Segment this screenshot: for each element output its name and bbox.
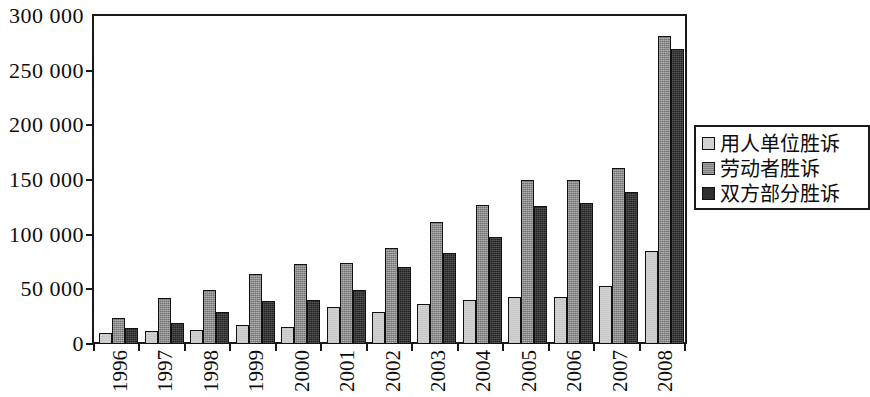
- legend-item-label: 劳动者胜诉: [720, 159, 820, 179]
- y-axis-tick-label: 250 000: [9, 60, 84, 82]
- bar: [372, 312, 385, 344]
- x-axis-tick-mark: [593, 344, 595, 351]
- bar: [534, 206, 547, 344]
- bar: [353, 290, 366, 344]
- bar-group: [145, 16, 184, 344]
- x-axis-tick-mark: [684, 344, 686, 351]
- y-axis-tick-label: 300 000: [9, 5, 84, 27]
- x-axis-tick-mark: [457, 344, 459, 351]
- plot-surface: [94, 16, 685, 344]
- bar: [476, 205, 489, 344]
- x-axis-tick-label: 2008: [653, 350, 678, 392]
- bar-group: [554, 16, 593, 344]
- x-axis-tick-mark: [411, 344, 413, 351]
- bar: [281, 327, 294, 344]
- light-gray-swatch: [702, 137, 715, 150]
- bar: [216, 312, 229, 344]
- x-axis-tick-label: 2007: [608, 350, 633, 392]
- bar: [340, 263, 353, 344]
- bar: [417, 304, 430, 344]
- y-axis-tick-mark: [86, 179, 94, 181]
- bar-group: [99, 16, 138, 344]
- bar: [521, 180, 534, 344]
- bar: [612, 168, 625, 344]
- y-axis-tick-label: 100 000: [9, 224, 84, 246]
- bar: [190, 330, 203, 344]
- x-axis-tick-mark: [138, 344, 140, 351]
- bar: [567, 180, 580, 344]
- bar: [171, 323, 184, 344]
- bar: [99, 333, 112, 344]
- bar: [508, 297, 521, 344]
- x-axis-tick-mark: [366, 344, 368, 351]
- bar-group: [417, 16, 456, 344]
- x-axis-tick-label: 1998: [199, 350, 224, 392]
- y-axis-tick-mark: [86, 70, 94, 72]
- bar: [125, 328, 138, 344]
- bar: [145, 331, 158, 344]
- bar-group: [190, 16, 229, 344]
- y-axis-tick-mark: [86, 234, 94, 236]
- dark-gray-swatch: [702, 187, 715, 200]
- bar: [249, 274, 262, 344]
- x-axis-tick-mark: [275, 344, 277, 351]
- x-axis-tick-mark: [229, 344, 231, 351]
- bar-group: [463, 16, 502, 344]
- x-axis-tick-mark: [93, 344, 95, 351]
- bar: [262, 301, 275, 344]
- bar: [385, 248, 398, 344]
- x-axis-tick-label: 1999: [244, 350, 269, 392]
- bar: [327, 307, 340, 344]
- bar: [203, 290, 216, 344]
- bar: [463, 300, 476, 344]
- y-axis-tick-label: 50 000: [21, 278, 85, 300]
- bar: [625, 192, 638, 344]
- y-axis-tick-mark: [86, 288, 94, 290]
- bar: [294, 264, 307, 344]
- x-axis-tick-label: 2000: [290, 350, 315, 392]
- legend-item-label: 用人单位胜诉: [720, 134, 840, 154]
- bar-group: [645, 16, 684, 344]
- x-axis-tick-label: 2001: [335, 350, 360, 392]
- x-axis-tick-label: 2005: [517, 350, 542, 392]
- bar: [671, 49, 684, 344]
- bar: [398, 267, 411, 344]
- x-axis-tick-mark: [502, 344, 504, 351]
- y-axis-tick-label: 150 000: [9, 169, 84, 191]
- bar-group: [327, 16, 366, 344]
- legend-item[interactable]: 双方部分胜诉: [702, 181, 868, 206]
- bar: [112, 318, 125, 344]
- x-axis-tick-mark: [320, 344, 322, 351]
- bar-group: [372, 16, 411, 344]
- bar: [443, 253, 456, 344]
- bar: [554, 297, 567, 344]
- x-axis-tick-mark: [639, 344, 641, 351]
- legend-item-label: 双方部分胜诉: [720, 184, 840, 204]
- bar: [307, 300, 320, 344]
- y-axis-tick-mark: [86, 124, 94, 126]
- bar: [158, 298, 171, 344]
- legend-item[interactable]: 劳动者胜诉: [702, 156, 868, 181]
- bar: [430, 222, 443, 344]
- x-axis-tick-label: 2006: [562, 350, 587, 392]
- bar: [580, 203, 593, 344]
- bar: [489, 237, 502, 344]
- x-axis-tick-label: 2003: [426, 350, 451, 392]
- x-axis-tick-label: 1997: [153, 350, 178, 392]
- bar: [599, 286, 612, 344]
- bar-group: [281, 16, 320, 344]
- bar: [658, 36, 671, 344]
- y-axis-tick-label: 200 000: [9, 114, 84, 136]
- medium-gray-swatch: [702, 162, 715, 175]
- y-axis: 300 000250 000200 000150 000100 00050 00…: [0, 0, 84, 397]
- bar-group: [599, 16, 638, 344]
- x-axis-tick-label: 1996: [108, 350, 133, 392]
- x-axis-tick-label: 2002: [381, 350, 406, 392]
- x-axis: 1996199719981999200020012002200320042005…: [0, 344, 700, 397]
- bar-group: [508, 16, 547, 344]
- bar: [236, 325, 249, 344]
- legend-item[interactable]: 用人单位胜诉: [702, 131, 868, 156]
- x-axis-tick-mark: [184, 344, 186, 351]
- x-axis-tick-label: 2004: [471, 350, 496, 392]
